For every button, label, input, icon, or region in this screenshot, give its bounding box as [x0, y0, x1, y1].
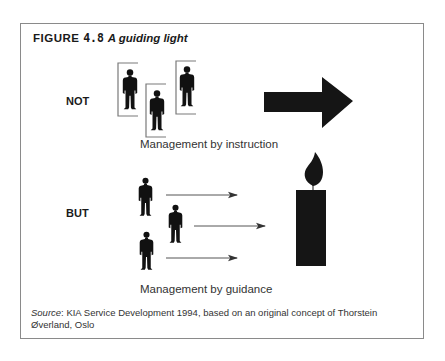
person-icon	[139, 178, 153, 216]
source-text: : KIA Service Development 1994, based on…	[31, 307, 377, 330]
source-prefix: Source	[31, 307, 61, 318]
arrow-right-icon	[264, 77, 353, 128]
guided-people-group	[139, 178, 183, 270]
candle-icon	[296, 152, 326, 266]
person-icon	[140, 232, 154, 270]
person-icon	[150, 90, 164, 130]
person-icon	[123, 69, 137, 109]
person-icon	[180, 66, 194, 106]
source-note: Source: KIA Service Development 1994, ba…	[31, 307, 416, 331]
person-icon	[169, 205, 183, 243]
boxed-people-group	[118, 61, 196, 137]
